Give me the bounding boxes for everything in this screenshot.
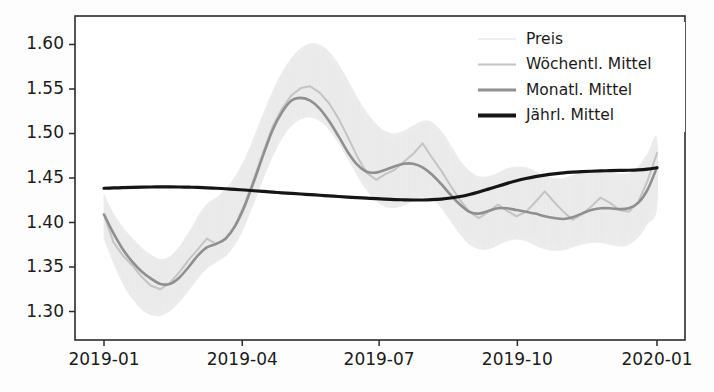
x-tick-label: 2019-04 [207,349,278,369]
y-tick-label: 1.50 [26,122,64,142]
x-tick-label: 2019-01 [68,349,139,369]
chart-figure: 1.301.351.401.451.501.551.60 2019-012019… [0,0,714,392]
y-tick-label: 1.60 [26,33,64,53]
chart-canvas: 1.301.351.401.451.501.551.60 2019-012019… [0,0,714,392]
y-tick-label: 1.55 [26,78,64,98]
legend-label: Jährl. Mittel [525,106,614,124]
y-tick-label: 1.40 [26,212,64,232]
x-tick-label: 2019-07 [344,349,415,369]
y-tick-label: 1.30 [26,301,64,321]
legend-label: Wöchentl. Mittel [526,55,652,73]
legend[interactable]: PreisWöchentl. MittelMonatl. MittelJährl… [470,22,685,132]
y-tick-label: 1.45 [26,167,64,187]
legend-label: Monatl. Mittel [526,81,632,99]
x-tick-label: 2020-01 [621,349,692,369]
y-tick-label: 1.35 [26,256,64,276]
x-tick-label: 2019-10 [482,349,553,369]
legend-label: Preis [526,30,563,48]
